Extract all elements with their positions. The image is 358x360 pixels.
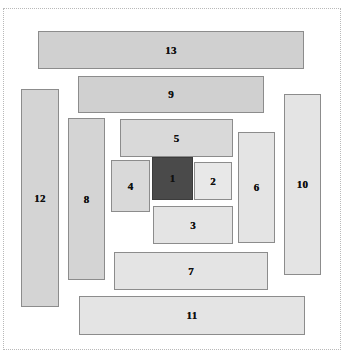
rectangle-11[interactable]: 11 bbox=[79, 296, 305, 335]
rectangle-13[interactable]: 13 bbox=[38, 31, 304, 69]
rectangle-6[interactable]: 6 bbox=[238, 132, 275, 243]
rectangle-label: 6 bbox=[254, 182, 260, 193]
rectangle-label: 1 bbox=[170, 173, 176, 184]
rectangle-label: 5 bbox=[174, 133, 180, 144]
rectangle-4[interactable]: 4 bbox=[111, 160, 150, 212]
rectangle-label: 9 bbox=[168, 89, 174, 100]
rectangle-label: 4 bbox=[128, 181, 134, 192]
rectangle-1[interactable]: 1 bbox=[152, 157, 193, 200]
rectangle-label: 12 bbox=[34, 193, 45, 204]
rectangle-label: 7 bbox=[188, 266, 194, 277]
rectangle-8[interactable]: 8 bbox=[68, 118, 105, 280]
rectangle-label: 8 bbox=[84, 194, 90, 205]
rectangle-label: 10 bbox=[297, 179, 308, 190]
rectangle-2[interactable]: 2 bbox=[194, 162, 232, 200]
rectangle-label: 3 bbox=[190, 220, 196, 231]
rectangle-label: 2 bbox=[210, 176, 216, 187]
rectangle-label: 13 bbox=[165, 45, 176, 56]
rectangle-5[interactable]: 5 bbox=[120, 119, 233, 157]
rectangle-9[interactable]: 9 bbox=[78, 76, 264, 113]
rectangle-12[interactable]: 12 bbox=[21, 89, 59, 307]
diagram-canvas: 13951234678101112 bbox=[0, 0, 358, 360]
rectangle-10[interactable]: 10 bbox=[284, 94, 321, 275]
rectangle-7[interactable]: 7 bbox=[114, 252, 268, 290]
rectangle-3[interactable]: 3 bbox=[153, 206, 233, 244]
rectangle-label: 11 bbox=[187, 310, 198, 321]
